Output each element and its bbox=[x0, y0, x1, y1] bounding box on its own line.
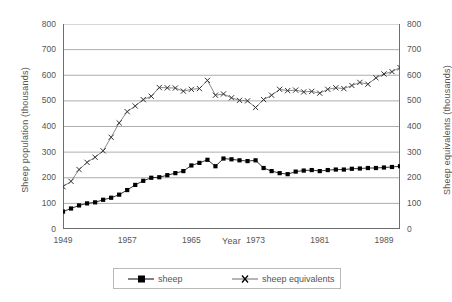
y-axis-left-tick-700: 700 bbox=[26, 44, 56, 54]
y-axis-right-tick-400: 400 bbox=[407, 121, 437, 131]
y-axis-left-tick-600: 600 bbox=[26, 70, 56, 80]
x-axis-tick-1981: 1981 bbox=[300, 235, 340, 245]
y-axis-right-tick-0: 0 bbox=[407, 224, 437, 234]
y-axis-right-title: Sheep equivalents (thousands) bbox=[442, 35, 452, 225]
x-axis-tick-1949: 1949 bbox=[43, 235, 83, 245]
y-axis-right-tick-700: 700 bbox=[407, 44, 437, 54]
x-axis-tick-1957: 1957 bbox=[107, 235, 147, 245]
y-axis-right-tick-800: 800 bbox=[407, 19, 437, 29]
plot-svg bbox=[63, 24, 400, 229]
y-axis-left-tick-0: 0 bbox=[26, 224, 56, 234]
chart-legend: sheep sheep equivalents bbox=[113, 268, 341, 289]
y-axis-left-tick-200: 200 bbox=[26, 172, 56, 182]
y-axis-left-tick-500: 500 bbox=[26, 95, 56, 105]
plot-area bbox=[63, 24, 400, 229]
chart-container: Sheep population (thousands) Sheep equiv… bbox=[0, 0, 452, 302]
legend-label-sheep: sheep bbox=[158, 274, 183, 284]
legend-label-sheep-equivalents: sheep equivalents bbox=[262, 274, 335, 284]
legend-marker-square-icon bbox=[128, 274, 154, 284]
y-axis-left-tick-400: 400 bbox=[26, 121, 56, 131]
y-axis-left-tick-800: 800 bbox=[26, 19, 56, 29]
y-axis-right-tick-200: 200 bbox=[407, 172, 437, 182]
x-axis-tick-1973: 1973 bbox=[236, 235, 276, 245]
x-axis-tick-1989: 1989 bbox=[364, 235, 404, 245]
legend-marker-x-icon bbox=[232, 274, 258, 284]
y-axis-right-tick-600: 600 bbox=[407, 70, 437, 80]
y-axis-right-tick-100: 100 bbox=[407, 198, 437, 208]
x-axis-tick-1965: 1965 bbox=[171, 235, 211, 245]
legend-item-sheep[interactable]: sheep bbox=[128, 269, 183, 288]
y-axis-right-tick-300: 300 bbox=[407, 147, 437, 157]
y-axis-right-tick-500: 500 bbox=[407, 95, 437, 105]
y-axis-left-tick-300: 300 bbox=[26, 147, 56, 157]
legend-item-sheep-equivalents[interactable]: sheep equivalents bbox=[232, 269, 335, 288]
y-axis-left-tick-100: 100 bbox=[26, 198, 56, 208]
